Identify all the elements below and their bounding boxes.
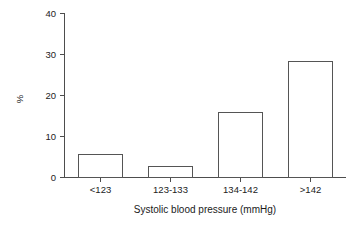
bar-1 [149, 166, 193, 177]
bar-chart-figure: 40 30 20 10 0 % <123 123-133 134-142 >14… [0, 0, 355, 232]
x-tick-label-2: 134-142 [223, 184, 258, 195]
x-tick-label-3: >142 [300, 184, 321, 195]
x-tick-label-0: <123 [90, 184, 111, 195]
x-tick-label-1: 123-133 [153, 184, 188, 195]
x-axis-title: Systolic blood pressure (mmHg) [134, 204, 276, 215]
bar-2 [219, 112, 263, 177]
y-tick-label-40: 40 [45, 8, 56, 19]
y-axis-title: % [14, 94, 25, 103]
y-tick-label-20: 20 [45, 90, 56, 101]
y-tick-label-10: 10 [45, 131, 56, 142]
bar-3 [289, 61, 333, 177]
bar-0 [79, 155, 123, 178]
chart-canvas: 40 30 20 10 0 % <123 123-133 134-142 >14… [0, 0, 355, 232]
y-tick-label-0: 0 [51, 172, 56, 183]
y-tick-label-30: 30 [45, 49, 56, 60]
